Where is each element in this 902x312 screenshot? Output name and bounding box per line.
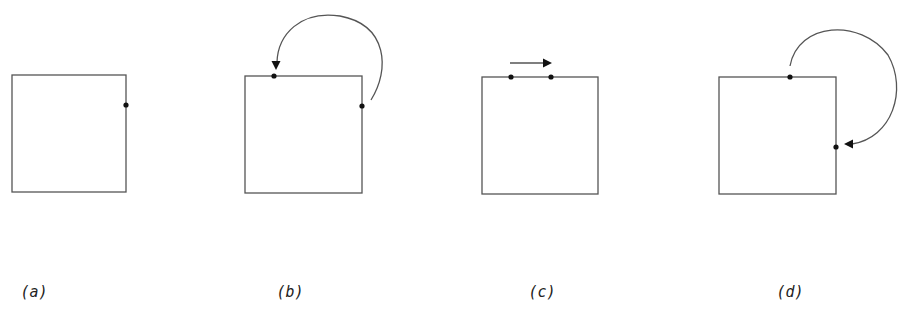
arrowhead-icon-d xyxy=(844,140,853,149)
label-panel-c: (c) xyxy=(512,283,572,301)
square-c xyxy=(482,77,598,194)
curved-arrow-d xyxy=(790,30,897,144)
square-d xyxy=(719,77,836,194)
point-c-1 xyxy=(508,74,513,79)
point-b-1 xyxy=(271,73,276,78)
panel-b xyxy=(245,15,382,193)
panel-a xyxy=(12,75,129,192)
curved-arrow-b xyxy=(277,15,382,100)
square-a xyxy=(12,75,126,192)
diagram-canvas xyxy=(0,0,902,312)
arrowhead-icon-b xyxy=(272,61,281,70)
square-b xyxy=(245,76,362,193)
point-c-2 xyxy=(548,74,553,79)
label-panel-a: (a) xyxy=(4,283,64,301)
point-d-1 xyxy=(787,74,792,79)
point-a-1 xyxy=(123,102,128,107)
panel-d xyxy=(719,30,897,194)
panel-c xyxy=(482,59,598,195)
arrowhead-icon-c xyxy=(543,59,552,68)
label-panel-d: (d) xyxy=(760,283,820,301)
point-d-2 xyxy=(833,144,838,149)
point-b-2 xyxy=(359,103,364,108)
label-panel-b: (b) xyxy=(260,283,320,301)
